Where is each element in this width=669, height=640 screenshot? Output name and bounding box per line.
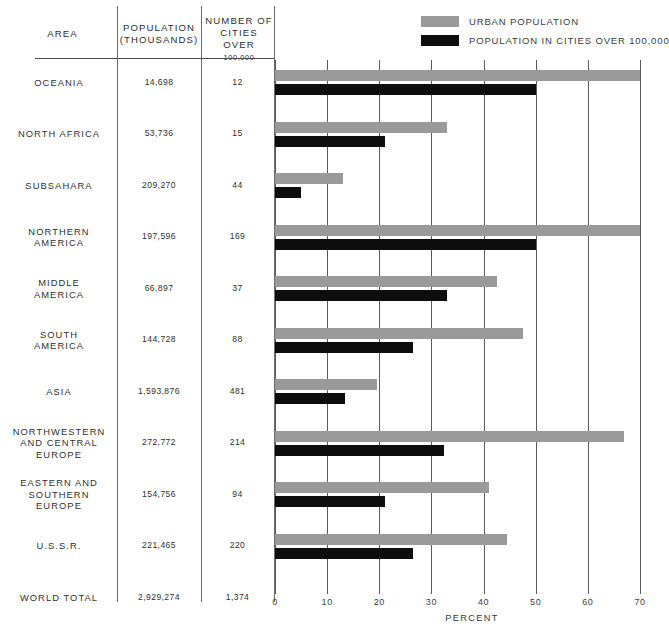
axis-title-percent: PERCENT: [275, 613, 669, 623]
gridline-50: [536, 60, 537, 585]
gridline-70: [640, 60, 641, 585]
column-header-population-line1: POPULATION: [123, 22, 195, 33]
tick-label-30: 30: [426, 597, 437, 607]
legend-item-cities: POPULATION IN CITIES OVER 100,000: [421, 33, 665, 47]
bar-cities-5: [275, 342, 413, 353]
row-value-cities-9: 220: [202, 540, 273, 552]
tick-label-20: 20: [374, 597, 385, 607]
tick-label-70: 70: [634, 597, 645, 607]
bar-urban-0: [275, 70, 640, 81]
row-label-area-6: ASIA: [4, 386, 114, 398]
chart-legend: URBAN POPULATION POPULATION IN CITIES OV…: [421, 14, 665, 52]
column-divider-1: [117, 6, 118, 602]
row-value-population-3: 197,596: [118, 231, 200, 243]
bar-cities-8: [275, 496, 385, 507]
tick-label-60: 60: [582, 597, 593, 607]
tick-mark-60: [588, 585, 589, 594]
bar-urban-9: [275, 534, 507, 545]
row-label-area-9: U.S.S.R.: [4, 540, 114, 552]
row-label-area-3: NORTHERNAMERICA: [4, 226, 114, 249]
row-value-cities-8: 94: [202, 489, 273, 501]
row-label-area-1: NORTH AFRICA: [4, 128, 114, 140]
legend-swatch-cities-icon: [421, 35, 459, 46]
row-value-population-7: 272,772: [118, 437, 200, 449]
row-label-area-10: WORLD TOTAL: [4, 592, 114, 604]
row-value-population-0: 14,698: [118, 77, 200, 89]
tick-label-50: 50: [530, 597, 541, 607]
column-header-cities-line2: CITIES OVER: [220, 27, 258, 50]
row-label-area-7: NORTHWESTERNAND CENTRALEUROPE: [4, 426, 114, 461]
column-divider-2: [201, 6, 202, 602]
gridline-60: [588, 60, 589, 585]
column-header-cities: NUMBER OF CITIES OVER 100,000: [203, 15, 275, 64]
tick-mark-20: [379, 585, 380, 594]
row-value-cities-2: 44: [202, 180, 273, 192]
chart-x-axis: 010203040506070 PERCENT: [275, 585, 669, 640]
row-label-area-0: OCEANIA: [4, 77, 114, 89]
row-value-cities-6: 481: [202, 386, 273, 398]
row-label-area-8: EASTERN ANDSOUTHERNEUROPE: [4, 477, 114, 512]
row-value-cities-10: 1,374: [202, 592, 273, 604]
row-label-area-2: SUBSAHARA: [4, 180, 114, 192]
bar-urban-4: [275, 276, 497, 287]
row-value-cities-4: 37: [202, 283, 273, 295]
row-value-population-1: 53,736: [118, 128, 200, 140]
bar-cities-1: [275, 136, 385, 147]
tick-mark-40: [484, 585, 485, 594]
row-value-population-5: 144,728: [118, 334, 200, 346]
tick-mark-10: [327, 585, 328, 594]
chart-plot-area: [275, 60, 669, 585]
row-value-population-10: 2,929,274: [118, 592, 200, 604]
chart-page: URBAN POPULATION POPULATION IN CITIES OV…: [0, 0, 669, 640]
row-value-cities-5: 88: [202, 334, 273, 346]
bar-urban-8: [275, 482, 489, 493]
column-header-area: AREA: [10, 28, 115, 40]
column-header-population-line2: (THOUSANDS): [120, 34, 199, 45]
bar-urban-7: [275, 431, 624, 442]
gridline-40: [484, 60, 485, 585]
header-divider: [35, 58, 275, 59]
table-header: AREA POPULATION (THOUSANDS) NUMBER OF CI…: [0, 0, 275, 58]
bar-urban-1: [275, 122, 447, 133]
bar-cities-7: [275, 445, 444, 456]
row-label-area-5: SOUTHAMERICA: [4, 329, 114, 352]
bar-cities-4: [275, 290, 447, 301]
tick-label-0: 0: [272, 597, 278, 607]
row-value-population-8: 154,756: [118, 489, 200, 501]
bar-urban-2: [275, 173, 343, 184]
bar-cities-9: [275, 548, 413, 559]
row-value-cities-3: 169: [202, 231, 273, 243]
bar-cities-6: [275, 393, 345, 404]
column-header-cities-line1: NUMBER OF: [205, 15, 272, 26]
tick-mark-30: [431, 585, 432, 594]
row-value-population-6: 1,593,876: [118, 386, 200, 398]
gridline-30: [431, 60, 432, 585]
bar-urban-3: [275, 225, 640, 236]
tick-label-10: 10: [322, 597, 333, 607]
row-value-cities-0: 12: [202, 77, 273, 89]
row-value-population-9: 221,465: [118, 540, 200, 552]
row-value-population-2: 209,270: [118, 180, 200, 192]
bar-urban-6: [275, 379, 377, 390]
tick-label-40: 40: [478, 597, 489, 607]
bar-cities-3: [275, 239, 536, 250]
column-header-population: POPULATION (THOUSANDS): [118, 22, 200, 46]
bar-cities-0: [275, 84, 536, 95]
bar-urban-5: [275, 328, 523, 339]
legend-label-urban: URBAN POPULATION: [469, 16, 579, 27]
row-value-cities-1: 15: [202, 128, 273, 140]
tick-mark-50: [536, 585, 537, 594]
bar-cities-2: [275, 187, 301, 198]
legend-label-cities: POPULATION IN CITIES OVER 100,000: [469, 35, 669, 46]
row-value-cities-7: 214: [202, 437, 273, 449]
legend-item-urban: URBAN POPULATION: [421, 14, 665, 28]
tick-mark-0: [275, 585, 276, 594]
row-label-area-4: MIDDLEAMERICA: [4, 277, 114, 300]
row-value-population-4: 66,897: [118, 283, 200, 295]
legend-swatch-urban-icon: [421, 16, 459, 27]
tick-mark-70: [640, 585, 641, 594]
